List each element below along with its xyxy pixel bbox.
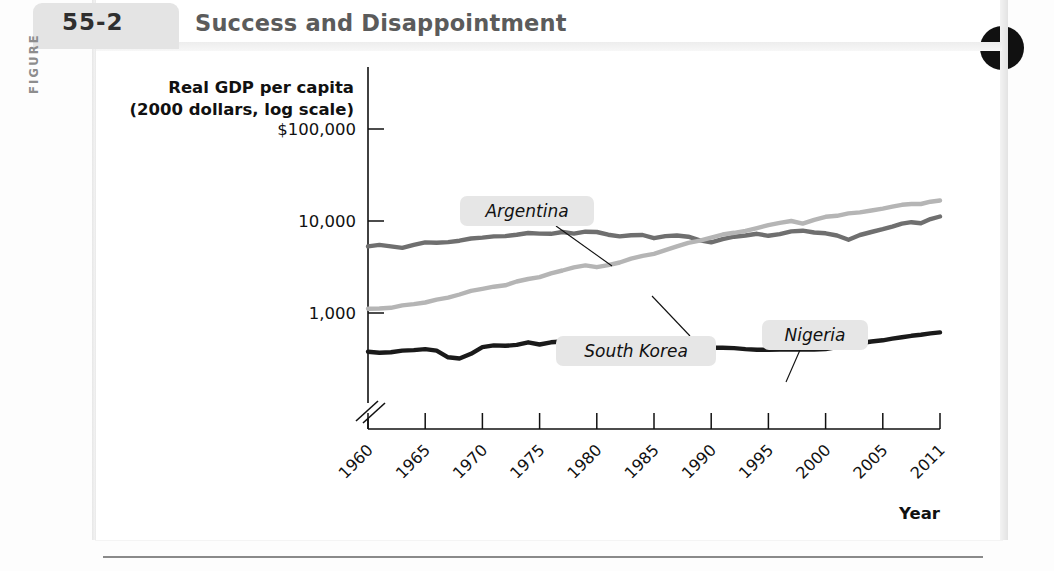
- y-axis-tick-label: 1,000: [309, 304, 356, 323]
- x-axis-tick-label: 1980: [563, 440, 605, 482]
- callout-label: Argentina: [484, 201, 568, 221]
- x-axis-tick-label: 1985: [621, 440, 663, 482]
- line-chart: Real GDP per capita(2000 dollars, log sc…: [96, 51, 1002, 540]
- callout-leader-line: [786, 350, 800, 382]
- x-axis-tick-label: 2005: [849, 440, 891, 482]
- figure-number: 55-2: [62, 9, 124, 35]
- callout-leader-line: [652, 296, 690, 336]
- y-axis-tick-label: $100,000: [277, 120, 356, 139]
- x-axis-tick-label: 2011: [907, 440, 949, 482]
- chart-area: Real GDP per capita(2000 dollars, log sc…: [96, 51, 1002, 540]
- figure-title: Success and Disappointment: [195, 10, 567, 36]
- y-axis-title-line1: Real GDP per capita: [168, 78, 354, 97]
- series-line-argentina: [368, 217, 940, 248]
- x-axis-tick-label: 1975: [506, 440, 548, 482]
- x-axis-tick-label: 1965: [392, 440, 434, 482]
- figure-kicker: FIGURE: [27, 8, 41, 94]
- y-axis-tick-label: 10,000: [298, 212, 356, 231]
- page-bottom-rule: [103, 556, 983, 558]
- y-axis-title-line2: (2000 dollars, log scale): [130, 100, 354, 119]
- x-axis-tick-label: 2000: [792, 440, 834, 482]
- x-axis-tick-label: 1960: [335, 440, 377, 482]
- callout-label: Nigeria: [785, 325, 846, 345]
- x-axis-tick-label: 1990: [678, 440, 720, 482]
- axis-break-icon-2: [363, 403, 385, 423]
- x-axis-tick-label: 1970: [449, 440, 491, 482]
- series-line-south-korea: [368, 201, 940, 309]
- x-axis-tick-label: 1995: [735, 440, 777, 482]
- header-band: [96, 42, 1002, 51]
- series-callout-south-korea: South Korea: [556, 296, 716, 366]
- figure-page: FIGURE 55-2 Success and Disappointment R…: [0, 0, 1054, 571]
- callout-label: South Korea: [584, 341, 688, 361]
- axis-break-icon: [356, 401, 378, 421]
- x-axis-title: Year: [898, 504, 941, 523]
